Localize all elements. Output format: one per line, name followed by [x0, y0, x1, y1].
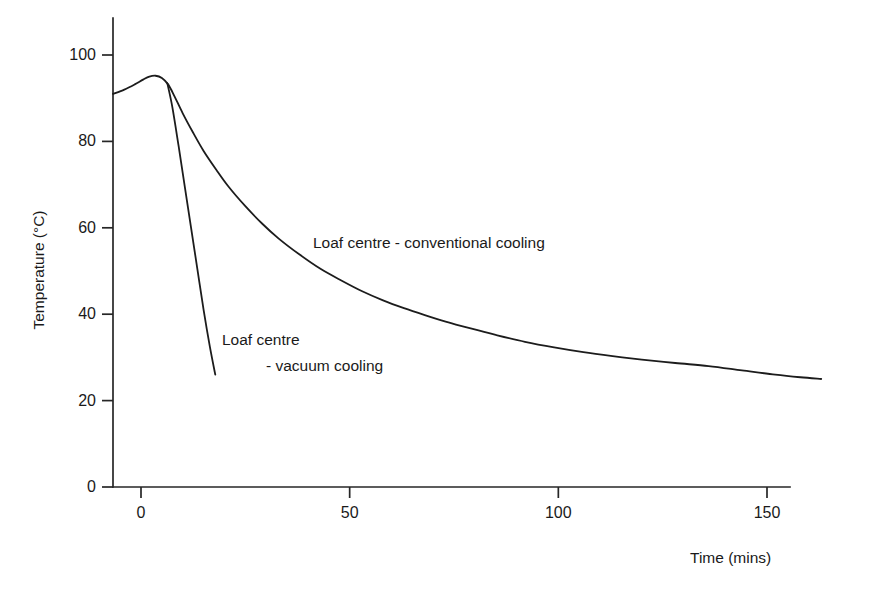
y-axis-title: Temperature (°C) [30, 210, 47, 329]
y-tick-label: 60 [78, 219, 96, 236]
x-tick-label: 0 [137, 504, 146, 521]
y-tick-label: 20 [78, 392, 96, 409]
data-curves [113, 76, 821, 379]
x-axis-ticks: 050100150 [137, 487, 781, 521]
y-axis-ticks: 020406080100 [69, 46, 113, 495]
y-tick-label: 80 [78, 132, 96, 149]
x-tick-label: 50 [341, 504, 359, 521]
chart-canvas: 020406080100 050100150 Temperature (°C) … [0, 0, 879, 595]
conventional-cooling-label: Loaf centre - conventional cooling [313, 234, 545, 251]
x-tick-label: 150 [754, 504, 781, 521]
curve-loaf-centre-vacuum-cooling [167, 83, 215, 375]
y-tick-label: 100 [69, 46, 96, 63]
vacuum-cooling-label-line1: Loaf centre [222, 331, 300, 348]
vacuum-cooling-label-line2: - vacuum cooling [266, 357, 383, 374]
curve-loaf-centre-conventional-cooling [113, 76, 821, 379]
y-tick-label: 40 [78, 305, 96, 322]
cooling-curves-figure: 020406080100 050100150 Temperature (°C) … [0, 0, 879, 595]
x-tick-label: 100 [545, 504, 572, 521]
x-axis-title: Time (mins) [690, 549, 771, 566]
y-tick-label: 0 [87, 478, 96, 495]
